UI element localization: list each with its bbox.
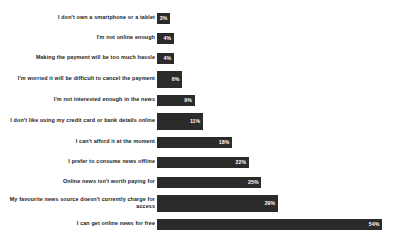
chart-rows: I don't own a smartphone or a tablet3%I'… [0, 0, 400, 247]
bar: 6% [157, 71, 182, 88]
category-label: I don't like using my credit card or ban… [0, 117, 157, 124]
bar: 25% [157, 177, 261, 188]
bar-track: 54% [157, 214, 400, 234]
bar-value-label: 29% [265, 200, 276, 206]
bar-track: 29% [157, 192, 400, 214]
category-label: I don't own a smartphone or a tablet [0, 14, 157, 21]
bar: 9% [157, 95, 195, 106]
category-label: My favourite news source doesn't current… [0, 196, 157, 210]
chart-row: I can't afford it at the moment18% [0, 132, 400, 152]
bar-track: 4% [157, 48, 400, 68]
bar-value-label: 6% [172, 76, 180, 82]
bar: 4% [157, 53, 174, 64]
bar-track: 9% [157, 90, 400, 110]
bar-value-label: 22% [235, 159, 246, 165]
category-label: I'm worried it will be difficult to canc… [0, 75, 157, 82]
chart-row: I'm not online enough4% [0, 28, 400, 48]
bar-value-label: 4% [163, 35, 171, 41]
bar-track: 4% [157, 28, 400, 48]
bar-track: 18% [157, 132, 400, 152]
chart-row: I can get online news for free54% [0, 214, 400, 234]
chart-row: Making the payment will be too much hass… [0, 48, 400, 68]
chart-row: My favourite news source doesn't current… [0, 192, 400, 214]
bar-value-label: 9% [184, 97, 192, 103]
bar-chart: I don't own a smartphone or a tablet3%I'… [0, 0, 400, 247]
bar: 4% [157, 33, 174, 44]
bar-value-label: 54% [369, 221, 380, 227]
category-label: I prefer to consume news offline [0, 158, 157, 165]
bar-track: 11% [157, 110, 400, 132]
bar-value-label: 18% [219, 139, 230, 145]
chart-row: I'm worried it will be difficult to canc… [0, 68, 400, 90]
bar-value-label: 4% [163, 55, 171, 61]
bar-track: 6% [157, 68, 400, 90]
chart-row: I don't like using my credit card or ban… [0, 110, 400, 132]
category-label: I can get online news for free [0, 220, 157, 227]
bar: 22% [157, 157, 249, 168]
category-label: I'm not online enough [0, 34, 157, 41]
bar-value-label: 3% [160, 15, 168, 21]
bar: 54% [157, 219, 382, 230]
bar-track: 25% [157, 172, 400, 192]
category-label: I'm not interested enough in the news [0, 96, 157, 103]
category-label: I can't afford it at the moment [0, 138, 157, 145]
bar: 3% [157, 13, 170, 24]
bar-track: 3% [157, 8, 400, 28]
bar-value-label: 25% [248, 179, 259, 185]
chart-row: Online news isn't worth paying for25% [0, 172, 400, 192]
chart-row: I prefer to consume news offline22% [0, 152, 400, 172]
chart-row: I don't own a smartphone or a tablet3% [0, 8, 400, 28]
bar: 11% [157, 113, 203, 130]
category-label: Online news isn't worth paying for [0, 178, 157, 185]
category-label: Making the payment will be too much hass… [0, 54, 157, 61]
bar-value-label: 11% [190, 118, 200, 124]
chart-row: I'm not interested enough in the news9% [0, 90, 400, 110]
bar-track: 22% [157, 152, 400, 172]
bar: 18% [157, 137, 232, 148]
bar: 29% [157, 195, 278, 212]
